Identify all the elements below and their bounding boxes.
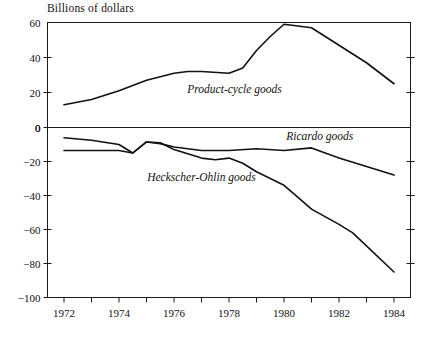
lower-y-tick-label: −60 (23, 224, 40, 236)
lower-y-tick-label: −20 (23, 156, 40, 168)
lower-y-tick-label: −80 (23, 258, 40, 270)
series-annotation-heckscher-ohlin-goods: Heckscher-Ohlin goods (147, 171, 256, 183)
series-line-heckscher-ohlin-goods (64, 142, 394, 272)
lower-y-tick-label: 0 (35, 122, 41, 134)
series-line-ricardo-goods (64, 138, 394, 175)
x-tick-label: 1974 (108, 307, 130, 319)
data-series-lines (64, 24, 394, 272)
upper-panel-frame (48, 23, 411, 128)
x-tick-label: 1980 (273, 307, 295, 319)
x-tick-label: 1978 (218, 307, 240, 319)
lower-y-tick-label: −100 (18, 292, 41, 304)
y-axis-title: Billions of dollars (47, 2, 134, 14)
lower-y-tick-label: −40 (23, 190, 40, 202)
series-annotation-ricardo-goods: Ricardo goods (286, 130, 353, 142)
series-annotation-product-cycle-goods: Product-cycle goods (187, 83, 281, 95)
x-tick-label: 1976 (163, 307, 185, 319)
upper-y-tick-label: 20 (30, 87, 41, 99)
panel-frames (48, 23, 411, 298)
x-tick-label: 1972 (53, 307, 75, 319)
x-tick-label: 1982 (328, 307, 350, 319)
upper-y-tick-label: 40 (30, 52, 41, 64)
chart-figure: Billions of dollars 0204060 0−20−40−60−8… (0, 0, 425, 341)
upper-y-tick-label: 60 (30, 17, 41, 29)
x-tick-label: 1984 (383, 307, 405, 319)
lower-panel-frame (48, 128, 411, 298)
